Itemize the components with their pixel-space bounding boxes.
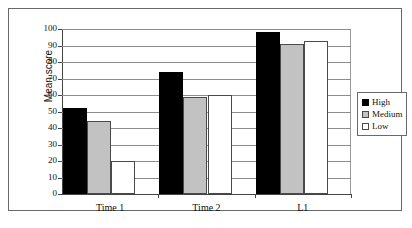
bar-medium-time-2 xyxy=(183,97,207,194)
y-axis-tick xyxy=(58,62,62,63)
y-axis-tick xyxy=(58,194,62,195)
y-axis-tick-label: 40 xyxy=(33,123,57,132)
legend-swatch-icon xyxy=(362,123,369,130)
figure-caption xyxy=(10,216,406,228)
legend-item-low[interactable]: Low xyxy=(362,120,403,132)
y-axis-tick xyxy=(58,112,62,113)
bar-low-time-2 xyxy=(208,95,232,194)
gridline xyxy=(62,29,351,30)
y-axis-tick-label: 10 xyxy=(33,173,57,182)
bar-medium-l1 xyxy=(280,44,304,194)
x-axis-category-label: L1 xyxy=(255,202,351,213)
y-axis-tick-label: 70 xyxy=(33,74,57,83)
legend-item-medium[interactable]: Medium xyxy=(362,108,403,120)
x-axis-tick xyxy=(158,194,159,198)
x-axis-tick xyxy=(351,194,352,198)
bar-high-time-1 xyxy=(63,108,87,194)
y-axis-tick xyxy=(58,46,62,47)
legend-item-label: High xyxy=(372,97,390,107)
x-axis-tick xyxy=(255,194,256,198)
y-axis-tick-label: 90 xyxy=(33,41,57,50)
bar-low-time-1 xyxy=(111,161,135,194)
y-axis-tick xyxy=(58,95,62,96)
y-axis-tick xyxy=(58,178,62,179)
y-axis-tick xyxy=(58,161,62,162)
y-axis-tick xyxy=(58,145,62,146)
y-axis-tick-label: 20 xyxy=(33,156,57,165)
y-axis-tick-label: 80 xyxy=(33,57,57,66)
y-axis-tick-label: 30 xyxy=(33,140,57,149)
y-axis-tick-label: 100 xyxy=(33,24,57,33)
legend-swatch-icon xyxy=(362,111,369,118)
y-axis-tick-label: 60 xyxy=(33,90,57,99)
chart-frame: Mean score 0102030405060708090100 Time 1… xyxy=(8,8,402,211)
legend-item-high[interactable]: High xyxy=(362,96,403,108)
y-axis-tick-labels: 0102030405060708090100 xyxy=(27,9,57,212)
y-axis-tick xyxy=(58,79,62,80)
y-axis-tick-label: 0 xyxy=(33,189,57,198)
bar-high-time-2 xyxy=(159,72,183,194)
legend-swatch-icon xyxy=(362,99,369,106)
y-axis-tick-label: 50 xyxy=(33,107,57,116)
legend-item-label: Low xyxy=(372,121,389,131)
legend[interactable]: HighMediumLow xyxy=(357,92,407,136)
bar-high-l1 xyxy=(256,32,280,194)
x-axis-category-label: Time 2 xyxy=(158,202,254,213)
bar-medium-time-1 xyxy=(87,121,111,194)
y-axis-tick xyxy=(58,29,62,30)
figure-root: Mean score 0102030405060708090100 Time 1… xyxy=(0,0,412,228)
x-axis-category-label: Time 1 xyxy=(62,202,158,213)
y-axis-tick xyxy=(58,128,62,129)
legend-item-label: Medium xyxy=(372,109,403,119)
bar-low-l1 xyxy=(304,41,328,194)
